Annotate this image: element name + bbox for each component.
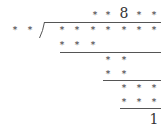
divisor-digit: * xyxy=(25,25,35,35)
step-digit: * xyxy=(119,97,129,107)
division-bar xyxy=(44,22,161,23)
subtraction-line xyxy=(120,108,161,109)
dividend-digit: * xyxy=(134,25,144,35)
step-digit: * xyxy=(103,69,113,79)
step-digit: * xyxy=(88,40,98,50)
dividend-digit: * xyxy=(119,25,129,35)
step-digit: * xyxy=(149,83,159,93)
division-bracket xyxy=(38,21,46,39)
quotient-digit: * xyxy=(90,10,100,20)
quotient-digit: * xyxy=(149,10,159,20)
step-digit: * xyxy=(57,40,67,50)
dividend-digit: * xyxy=(72,25,82,35)
step-digit: * xyxy=(103,55,113,65)
step-digit: * xyxy=(119,55,129,65)
step-digit: * xyxy=(72,40,82,50)
step-digit: * xyxy=(119,69,129,79)
dividend-digit: * xyxy=(103,25,113,35)
dividend-digit: * xyxy=(88,25,98,35)
dividend-digit: * xyxy=(57,25,67,35)
step-digit: * xyxy=(119,83,129,93)
quotient-digit: * xyxy=(134,10,144,20)
dividend-digit: * xyxy=(149,25,159,35)
divisor-digit: * xyxy=(10,25,20,35)
subtraction-line xyxy=(60,52,161,53)
step-digit: * xyxy=(134,83,144,93)
quotient-digit: * xyxy=(103,10,113,20)
quotient-digit: 8 xyxy=(119,6,129,20)
step-digit: * xyxy=(149,97,159,107)
subtraction-line xyxy=(103,80,161,81)
remainder: 1 xyxy=(149,112,159,126)
step-digit: * xyxy=(134,97,144,107)
